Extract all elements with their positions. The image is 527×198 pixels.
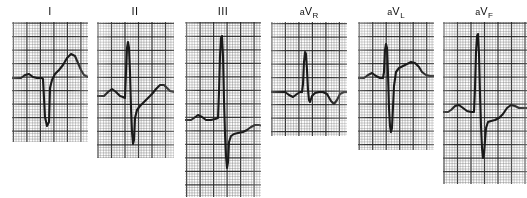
ecg-panel-lead-i <box>12 22 88 142</box>
ecg-trace-lead-iii <box>185 22 261 197</box>
lead-label-main: II <box>131 5 138 17</box>
ecg-panel-lead-ii <box>97 22 174 158</box>
ecg-trace-lead-avr <box>271 22 347 136</box>
lead-label-main: III <box>218 5 229 17</box>
ecg-panel-lead-avr <box>271 22 347 136</box>
lead-label-lead-i: I <box>20 5 80 18</box>
lead-label-lead-avl: aVL <box>366 5 426 22</box>
ecg-trace-lead-i <box>12 22 88 142</box>
ecg-trace-lead-ii <box>97 22 174 158</box>
lead-label-lead-avf: aVF <box>454 5 514 22</box>
ecg-panel-lead-avl <box>358 22 434 150</box>
lead-label-main: I <box>48 5 52 17</box>
lead-label-subscript: L <box>400 11 404 20</box>
ecg-trace-lead-avf <box>443 22 527 184</box>
lead-label-main: V <box>305 5 313 17</box>
ecg-figure: IIIIIIaVRaVLaVF <box>0 0 527 198</box>
lead-label-main: V <box>480 5 488 17</box>
ecg-panel-lead-avf <box>443 22 527 184</box>
lead-label-subscript: R <box>313 11 319 20</box>
lead-label-lead-avr: aVR <box>279 5 339 22</box>
lead-label-lead-ii: II <box>105 5 165 18</box>
ecg-trace-lead-avl <box>358 22 434 150</box>
lead-label-lead-iii: III <box>193 5 253 18</box>
ecg-panel-lead-iii <box>185 22 261 197</box>
lead-label-subscript: F <box>488 11 493 20</box>
